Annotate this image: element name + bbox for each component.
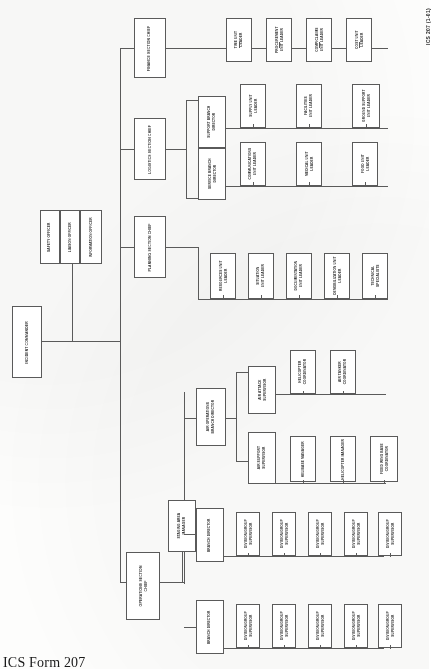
operations-section-chief-label: OPERATIONS SECTION CHIEF [138, 566, 148, 607]
operations-staging-area-box[interactable]: STAGING AREA MANAGER [168, 500, 196, 552]
connector-spine-planning [120, 247, 135, 248]
finance-section-chief-label: FINANCE SECTION CHIEF [148, 25, 153, 70]
situation-unit-leader-label: SITUATION UNIT LEADER [256, 264, 265, 287]
procurement-unit-leader-label: PROCUREMENT UNIT LEADER [274, 27, 283, 54]
operations-div-1-4[interactable]: DIVISION/GROUP SUPERVISOR [344, 604, 368, 648]
connector-as-u1 [343, 480, 344, 484]
connector-airattack-rail [276, 394, 386, 395]
connector-b1-u3 [356, 645, 357, 649]
air-support-supervisor-box[interactable]: AIR SUPPORT SUPERVISOR [248, 432, 276, 484]
connector-service-branch-in [186, 198, 198, 199]
connector-airops-spine [236, 372, 237, 462]
logistics-section-chief-label: LOGISTICS SECTION CHIEF [148, 125, 153, 174]
finance-unit-comp-claims[interactable]: COMP/CLAIMS UNIT LEADER [306, 18, 332, 62]
division-group-supervisor-label: DIVISION/GROUP SUPERVISOR [315, 520, 324, 549]
connector-operations-spine [184, 392, 185, 584]
command-staff-safety-officer[interactable]: SAFETY OFFICER [40, 210, 60, 264]
connector-airops-in [184, 418, 196, 419]
operations-div-2-5[interactable]: DIVISION/GROUP SUPERVISOR [378, 512, 402, 556]
resources-unit-leader-label: RESOURCES UNIT LEADER [218, 261, 227, 292]
finance-unit-time[interactable]: TIME UNIT LEADER [226, 18, 252, 62]
planning-unit-technical-specialists[interactable]: TECHNICAL SPECIALISTS [362, 253, 388, 299]
operations-section-chief-box[interactable]: OPERATIONS SECTION CHIEF [126, 552, 160, 620]
air-attack-supervisor-box[interactable]: AIR ATTACK SUPERVISOR [248, 366, 276, 414]
air-tanker-coordinator-label: AIR TANKER COORDINATOR [338, 359, 347, 384]
operations-div-2-4[interactable]: DIVISION/GROUP SUPERVISOR [344, 512, 368, 556]
connector-service-u0 [253, 182, 254, 187]
division-group-supervisor-label: DIVISION/GROUP SUPERVISOR [279, 612, 288, 641]
service-branch-director-label: SERVICE BRANCH DIRECTOR [207, 159, 216, 190]
logistics-unit-communications[interactable]: COMMUNICATIONS UNIT LEADER [240, 142, 266, 186]
connector-planning-chief-out [166, 247, 198, 248]
logistics-unit-facilities[interactable]: FACILITIES UNIT LEADER [296, 84, 322, 128]
planning-unit-resources[interactable]: RESOURCES UNIT LEADER [210, 253, 236, 299]
logistics-unit-ground-support[interactable]: GROUND SUPPORT UNIT LEADER [352, 84, 380, 128]
connector-logistics-branch-split [186, 100, 187, 198]
fixed-wing-base-coordinator-label: FIXED WING BASE COORDINATOR [379, 444, 388, 475]
planning-unit-documentation[interactable]: DOCUMENTATION UNIT LEADER [286, 253, 312, 299]
air-operations-branch-director-label: AIR OPERATIONS BRANCH DIRECTOR [206, 400, 215, 434]
finance-unit-procurement[interactable]: PROCUREMENT UNIT LEADER [266, 18, 292, 62]
logistics-support-branch-box[interactable]: SUPPORT BRANCH DIRECTOR [198, 96, 226, 148]
incident-commander-box[interactable]: INCIDENT COMMANDER [12, 306, 42, 378]
logistics-unit-supply[interactable]: SUPPLY UNIT LEADER [240, 84, 266, 128]
operations-branch-2-box[interactable]: BRANCH DIRECTOR [196, 508, 224, 562]
operations-div-2-2[interactable]: DIVISION/GROUP SUPERVISOR [272, 512, 296, 556]
operations-div-2-1[interactable]: DIVISION/GROUP SUPERVISOR [236, 512, 260, 556]
connector-finance-chief-out [166, 48, 198, 49]
command-staff-information-officer[interactable]: INFORMATION OFFICER [80, 210, 102, 264]
safety-officer-label: SAFETY OFFICER [48, 222, 53, 252]
facilities-unit-leader-label: FACILITIES UNIT LEADER [304, 94, 313, 117]
operations-branch-1-box[interactable]: BRANCH DIRECTOR [196, 600, 224, 654]
finance-section-chief-box[interactable]: FINANCE SECTION CHIEF [134, 18, 166, 78]
connector-planning-u2 [299, 295, 300, 300]
air-attack-unit-helicopter-coordinator[interactable]: HELICOPTER COORDINATOR [290, 350, 316, 394]
operations-div-1-3[interactable]: DIVISION/GROUP SUPERVISOR [308, 604, 332, 648]
connector-planning-drop [198, 247, 199, 300]
division-group-supervisor-label: DIVISION/GROUP SUPERVISOR [315, 612, 324, 641]
connector-finance-u1 [279, 42, 280, 48]
connector-airsupport-in [236, 461, 248, 462]
connector-b1-u1 [284, 645, 285, 649]
command-staff-liaison-officer[interactable]: LIAISON OFFICER [60, 210, 80, 264]
connector-service-rail [226, 186, 388, 187]
connector-spine-finance [120, 48, 135, 49]
connector-support-u0 [253, 124, 254, 129]
air-attack-unit-air-tanker-coordinator[interactable]: AIR TANKER COORDINATOR [330, 350, 356, 394]
incident-commander-label: INCIDENT COMMANDER [25, 321, 30, 363]
comp-claims-unit-leader-label: COMP/CLAIMS UNIT LEADER [314, 28, 323, 52]
connector-as-u0 [303, 480, 304, 484]
operations-div-1-2[interactable]: DIVISION/GROUP SUPERVISOR [272, 604, 296, 648]
connector-as-u2 [384, 480, 385, 484]
operations-div-2-3[interactable]: DIVISION/GROUP SUPERVISOR [308, 512, 332, 556]
demobilization-unit-leader-label: DEMOBILIZATION UNIT LEADER [332, 257, 341, 295]
ground-support-unit-leader-label: GROUND SUPPORT UNIT LEADER [361, 90, 370, 123]
air-support-unit-helicopter-manager[interactable]: HELICOPTER MANAGER [330, 436, 356, 482]
planning-unit-situation[interactable]: SITUATION UNIT LEADER [248, 253, 274, 299]
air-support-unit-fixed-wing[interactable]: FIXED WING BASE COORDINATOR [370, 436, 398, 482]
liaison-officer-label: LIAISON OFFICER [68, 222, 73, 252]
connector-finance-drop [198, 48, 199, 49]
helicopter-manager-label: HELICOPTER MANAGER [341, 439, 346, 480]
connector-spine-to-ic [72, 341, 121, 342]
connector-aa-u1 [343, 391, 344, 395]
air-operations-branch-director-box[interactable]: AIR OPERATIONS BRANCH DIRECTOR [196, 388, 226, 446]
connector-b2-u4 [390, 553, 391, 557]
connector-airattack-in [236, 372, 248, 373]
connector-service-u1 [309, 182, 310, 187]
logistics-unit-medical[interactable]: MEDICAL UNIT LEADER [296, 142, 322, 186]
logistics-service-branch-box[interactable]: SERVICE BRANCH DIRECTOR [198, 148, 226, 200]
planning-unit-demobilization[interactable]: DEMOBILIZATION UNIT LEADER [324, 253, 350, 299]
connector-b2-u1 [284, 553, 285, 557]
connector-planning-rail [198, 299, 388, 300]
finance-unit-cost[interactable]: COST UNIT LEADER [346, 18, 372, 62]
operations-div-1-1[interactable]: DIVISION/GROUP SUPERVISOR [236, 604, 260, 648]
planning-section-chief-box[interactable]: PLANNING SECTION CHIEF [134, 216, 166, 278]
connector-logistics-chief-out [166, 149, 186, 150]
logistics-section-chief-box[interactable]: LOGISTICS SECTION CHIEF [134, 118, 166, 180]
operations-div-1-5[interactable]: DIVISION/GROUP SUPERVISOR [378, 604, 402, 648]
logistics-unit-food[interactable]: FOOD UNIT LEADER [352, 142, 378, 186]
air-support-unit-helibase[interactable]: HELIBASE MANAGER [290, 436, 316, 482]
connector-b1-u2 [320, 645, 321, 649]
connector-finance-u0 [239, 42, 240, 48]
